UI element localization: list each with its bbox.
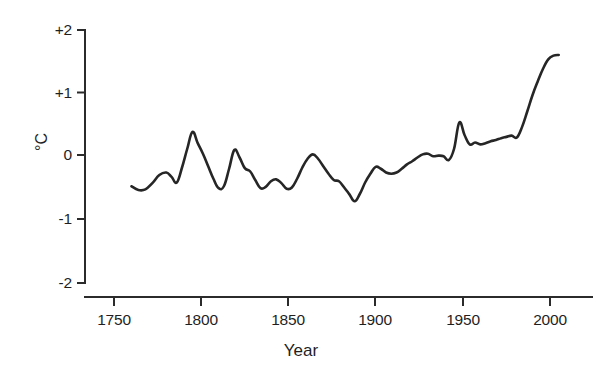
x-tick-label-1900: 1900 xyxy=(358,311,392,329)
y-tick-label-minus1: -1 xyxy=(48,210,72,228)
y-axis-title: °C xyxy=(33,122,51,162)
y-tick-label-1: +1 xyxy=(48,84,72,102)
y-tick-label-0: 0 xyxy=(48,146,72,164)
y-tick-label-2: +2 xyxy=(48,21,72,39)
x-tick-label-1850: 1850 xyxy=(271,311,305,329)
x-axis-title: Year xyxy=(0,341,602,361)
y-axis-group xyxy=(77,30,85,283)
x-tick-label-2000: 2000 xyxy=(533,311,567,329)
y-tick-label-minus2: -2 xyxy=(48,274,72,292)
temperature-anomaly-line xyxy=(131,55,558,201)
x-tick-label-1950: 1950 xyxy=(446,311,480,329)
chart-figure: +2 +1 0 -1 -2 1750 1800 1850 1900 1950 2… xyxy=(0,0,602,381)
x-tick-label-1800: 1800 xyxy=(184,311,218,329)
x-axis-group xyxy=(85,297,592,306)
x-tick-label-1750: 1750 xyxy=(97,311,131,329)
